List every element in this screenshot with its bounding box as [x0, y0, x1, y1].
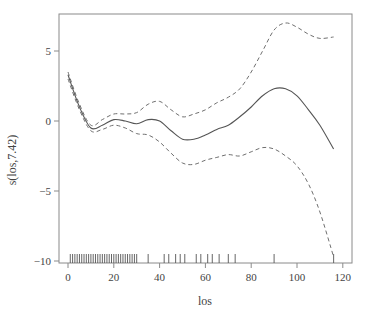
- x-tick-label: 80: [246, 271, 258, 283]
- x-tick-label: 40: [154, 271, 166, 283]
- x-axis-label: los: [198, 294, 212, 308]
- x-tick-label: 120: [335, 271, 352, 283]
- x-tick-label: 60: [200, 271, 212, 283]
- y-axis-label: s(los,7.42): [5, 135, 19, 186]
- y-tick-label: 5: [46, 45, 52, 57]
- y-tick-label: −5: [39, 185, 51, 197]
- confidence-band-line: [68, 23, 334, 126]
- rug-marks: [70, 254, 333, 263]
- y-tick-label: 0: [46, 115, 52, 127]
- y-tick-label: −10: [34, 255, 52, 267]
- smooth-estimate-line: [68, 75, 334, 149]
- series-lines: [68, 23, 334, 257]
- x-axis: 020406080100120: [65, 263, 351, 283]
- plot-frame: [59, 14, 352, 263]
- y-axis: 50−5−10: [34, 45, 59, 267]
- confidence-band-line: [68, 79, 334, 257]
- x-tick-label: 100: [289, 271, 306, 283]
- gam-smooth-plot: 50−5−10 020406080100120 los s(los,7.42): [0, 0, 367, 318]
- x-tick-label: 20: [108, 271, 120, 283]
- x-tick-label: 0: [65, 271, 71, 283]
